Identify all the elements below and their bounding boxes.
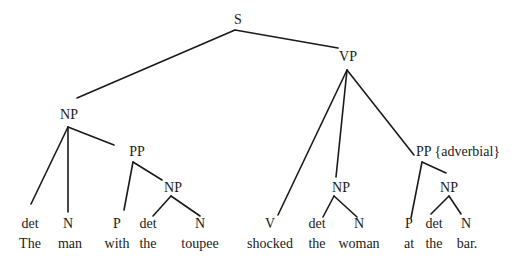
tree-edge [411, 162, 422, 218]
node-label-t9: P [405, 216, 413, 231]
tree-edge [449, 196, 461, 214]
node-label-t11: N [461, 216, 471, 231]
node-label-vp: VP [339, 49, 357, 64]
node-label-pp2: PP {adverbial} [416, 144, 500, 159]
tree-edge [171, 196, 200, 216]
tree-edge [422, 162, 446, 173]
tree-edge [77, 30, 235, 98]
tree-edge [124, 162, 133, 210]
word-token: man [58, 236, 82, 251]
node-label-t2: N [63, 216, 73, 231]
word-token: bar. [457, 236, 478, 251]
node-label-t5: N [195, 216, 205, 231]
tree-edge [235, 30, 338, 48]
tree-edge [347, 70, 414, 155]
node-label-t1: det [21, 216, 38, 231]
word-token: woman [338, 236, 379, 251]
tree-edge [336, 70, 347, 177]
node-label-np3: NP [332, 180, 350, 195]
node-label-t6: V [265, 216, 275, 231]
tree-edge [31, 127, 68, 204]
node-label-np2: NP [164, 180, 182, 195]
node-label-np4: NP [440, 180, 458, 195]
node-label-t3: P [113, 216, 121, 231]
word-token: toupee [181, 236, 218, 251]
sentence-words: Themanwiththetoupeeshockedthewomanattheb… [19, 236, 477, 251]
node-label-t8: N [354, 216, 364, 231]
node-label-t7: det [308, 216, 325, 231]
tree-edge [323, 196, 334, 217]
tree-edge [153, 196, 171, 216]
tree-edge [431, 196, 449, 214]
word-token: the [425, 236, 442, 251]
word-token: the [139, 236, 156, 251]
parse-tree-diagram: SNPVPPPNPNPPP {adverbial}NPdetNPdetNVdet… [0, 0, 511, 263]
tree-nodes: SNPVPPPNPNPPP {adverbial}NPdetNPdetNVdet… [21, 12, 500, 231]
tree-edge [68, 127, 114, 145]
tree-edge [334, 196, 357, 217]
node-label-t10: det [425, 216, 442, 231]
tree-edge [133, 162, 162, 180]
word-token: shocked [247, 236, 293, 251]
node-label-t4: det [139, 216, 156, 231]
word-token: the [308, 236, 325, 251]
word-token: with [105, 236, 130, 251]
word-token: at [404, 236, 414, 251]
node-label-s: S [234, 12, 242, 27]
node-label-np1: NP [60, 107, 78, 122]
tree-edges [31, 30, 461, 218]
node-label-pp1: PP [129, 144, 145, 159]
word-token: The [19, 236, 41, 251]
